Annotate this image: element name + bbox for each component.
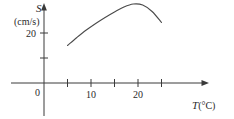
y-tick-label-20: 20 bbox=[26, 29, 36, 39]
x-axis-label: T(°C) bbox=[192, 96, 215, 112]
x-tick-label-20: 20 bbox=[133, 90, 143, 100]
x-tick-label-10: 10 bbox=[86, 90, 96, 100]
y-axis-units-label: (cm/s) bbox=[14, 17, 40, 27]
graph-figure: S (cm/s) 20 0 10 20 T(°C) bbox=[0, 0, 234, 119]
x-axis-units-label: (°C) bbox=[198, 100, 215, 111]
x-axis-arrow-icon bbox=[202, 80, 210, 86]
data-curve bbox=[68, 4, 162, 46]
y-axis-symbol-label: S bbox=[36, 3, 42, 14]
origin-label: 0 bbox=[35, 88, 40, 98]
